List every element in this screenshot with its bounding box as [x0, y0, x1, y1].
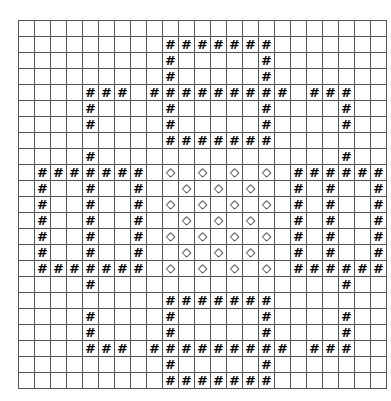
filled-cell[interactable]	[291, 293, 307, 309]
hash-cell[interactable]: #	[163, 373, 179, 389]
filled-cell[interactable]	[291, 373, 307, 389]
empty-cell[interactable]	[259, 245, 275, 261]
empty-cell[interactable]	[163, 213, 179, 229]
empty-cell[interactable]	[307, 53, 323, 69]
hash-cell[interactable]: #	[131, 229, 147, 245]
empty-cell[interactable]	[35, 149, 51, 165]
diamond-cell[interactable]: ◇	[227, 197, 243, 213]
empty-cell[interactable]	[99, 229, 115, 245]
empty-cell[interactable]	[339, 197, 355, 213]
empty-cell[interactable]	[99, 149, 115, 165]
filled-cell[interactable]	[371, 85, 387, 101]
hash-cell[interactable]: #	[227, 373, 243, 389]
hash-cell[interactable]: #	[259, 101, 275, 117]
hash-cell[interactable]: #	[83, 85, 99, 101]
hash-cell[interactable]: #	[163, 133, 179, 149]
filled-cell[interactable]	[131, 69, 147, 85]
empty-cell[interactable]	[115, 21, 131, 37]
hash-cell[interactable]: #	[323, 261, 339, 277]
diamond-cell[interactable]: ◇	[259, 261, 275, 277]
hash-cell[interactable]: #	[323, 213, 339, 229]
filled-cell[interactable]	[307, 133, 323, 149]
empty-cell[interactable]	[323, 309, 339, 325]
hash-cell[interactable]: #	[163, 309, 179, 325]
hash-cell[interactable]: #	[259, 373, 275, 389]
empty-cell[interactable]	[323, 117, 339, 133]
filled-cell[interactable]	[83, 373, 99, 389]
empty-cell[interactable]	[211, 69, 227, 85]
empty-cell[interactable]	[179, 229, 195, 245]
hash-cell[interactable]: #	[35, 245, 51, 261]
empty-cell[interactable]	[147, 165, 163, 181]
empty-cell[interactable]	[83, 21, 99, 37]
hash-cell[interactable]: #	[163, 325, 179, 341]
hash-cell[interactable]: #	[195, 37, 211, 53]
hash-cell[interactable]: #	[115, 85, 131, 101]
filled-cell[interactable]	[99, 373, 115, 389]
empty-cell[interactable]	[19, 293, 35, 309]
empty-cell[interactable]	[211, 325, 227, 341]
hash-cell[interactable]: #	[195, 293, 211, 309]
filled-cell[interactable]	[115, 133, 131, 149]
hash-cell[interactable]: #	[243, 341, 259, 357]
diamond-cell[interactable]: ◇	[179, 181, 195, 197]
empty-cell[interactable]	[51, 245, 67, 261]
hash-cell[interactable]: #	[163, 53, 179, 69]
empty-cell[interactable]	[163, 181, 179, 197]
empty-cell[interactable]	[147, 101, 163, 117]
empty-cell[interactable]	[355, 197, 371, 213]
empty-cell[interactable]	[67, 213, 83, 229]
empty-cell[interactable]	[19, 277, 35, 293]
empty-cell[interactable]	[115, 277, 131, 293]
hash-cell[interactable]: #	[323, 165, 339, 181]
hash-cell[interactable]: #	[115, 261, 131, 277]
empty-cell[interactable]	[67, 229, 83, 245]
empty-cell[interactable]	[243, 53, 259, 69]
empty-cell[interactable]	[51, 53, 67, 69]
empty-cell[interactable]	[195, 53, 211, 69]
filled-cell[interactable]	[35, 101, 51, 117]
empty-cell[interactable]	[99, 69, 115, 85]
hash-cell[interactable]: #	[371, 261, 387, 277]
empty-cell[interactable]	[307, 197, 323, 213]
hash-cell[interactable]: #	[259, 357, 275, 373]
empty-cell[interactable]	[339, 357, 355, 373]
empty-cell[interactable]	[51, 181, 67, 197]
empty-cell[interactable]	[355, 325, 371, 341]
hash-cell[interactable]: #	[131, 245, 147, 261]
filled-cell[interactable]	[35, 309, 51, 325]
diamond-cell[interactable]: ◇	[163, 229, 179, 245]
empty-cell[interactable]	[259, 181, 275, 197]
empty-cell[interactable]	[19, 117, 35, 133]
filled-cell[interactable]	[83, 133, 99, 149]
empty-cell[interactable]	[99, 117, 115, 133]
filled-cell[interactable]	[323, 37, 339, 53]
empty-cell[interactable]	[99, 357, 115, 373]
filled-cell[interactable]	[355, 373, 371, 389]
empty-cell[interactable]	[195, 357, 211, 373]
filled-cell[interactable]	[291, 309, 307, 325]
empty-cell[interactable]	[19, 21, 35, 37]
empty-cell[interactable]	[323, 325, 339, 341]
filled-cell[interactable]	[371, 117, 387, 133]
filled-cell[interactable]	[131, 357, 147, 373]
diamond-cell[interactable]: ◇	[259, 229, 275, 245]
diamond-cell[interactable]: ◇	[243, 213, 259, 229]
empty-cell[interactable]	[147, 309, 163, 325]
hash-cell[interactable]: #	[179, 293, 195, 309]
empty-cell[interactable]	[195, 21, 211, 37]
empty-cell[interactable]	[211, 53, 227, 69]
hash-cell[interactable]: #	[339, 341, 355, 357]
empty-cell[interactable]	[179, 101, 195, 117]
empty-cell[interactable]	[67, 277, 83, 293]
hash-cell[interactable]: #	[179, 133, 195, 149]
hash-cell[interactable]: #	[259, 37, 275, 53]
empty-cell[interactable]	[355, 85, 371, 101]
empty-cell[interactable]	[243, 309, 259, 325]
hash-cell[interactable]: #	[83, 213, 99, 229]
empty-cell[interactable]	[291, 277, 307, 293]
hash-cell[interactable]: #	[259, 133, 275, 149]
empty-cell[interactable]	[51, 309, 67, 325]
filled-cell[interactable]	[131, 117, 147, 133]
empty-cell[interactable]	[35, 277, 51, 293]
